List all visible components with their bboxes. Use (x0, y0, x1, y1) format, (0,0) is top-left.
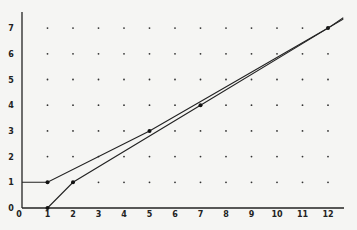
grid-dot (225, 181, 227, 183)
x-tick-label: 0 (16, 210, 22, 219)
line-chart-plot: 012345678910111201234567 (0, 0, 357, 230)
grid-dot (123, 156, 125, 158)
grid-dot (251, 156, 253, 158)
grid-dot (302, 181, 304, 183)
grid-dot (98, 27, 100, 29)
x-tick-label: 8 (223, 210, 229, 219)
grid-dot (200, 53, 202, 55)
grid-dot (302, 156, 304, 158)
grid-dot (200, 27, 202, 29)
grid-dot (123, 104, 125, 106)
grid-dot (72, 156, 74, 158)
x-tick-label: 12 (322, 210, 333, 219)
grid-dot (72, 130, 74, 132)
grid-dot (327, 130, 329, 132)
grid-dot (47, 79, 49, 81)
grid-dot (302, 104, 304, 106)
y-tick-label: 4 (8, 101, 14, 110)
grid-dot (123, 130, 125, 132)
grid-dot (123, 79, 125, 81)
grid-dot (47, 130, 49, 132)
x-tick-label: 9 (249, 210, 255, 219)
grid-dot (123, 181, 125, 183)
data-point (199, 103, 203, 107)
grid-dot (225, 27, 227, 29)
grid-dot (149, 53, 151, 55)
grid-dot (251, 27, 253, 29)
grid-dot (327, 181, 329, 183)
grid-dot (47, 53, 49, 55)
grid-dot (251, 130, 253, 132)
x-tick-label: 11 (297, 210, 309, 219)
grid-dot (98, 53, 100, 55)
grid-dot (276, 104, 278, 106)
grid-dot (149, 156, 151, 158)
grid-dot (174, 53, 176, 55)
grid-dot (327, 104, 329, 106)
y-tick-label: 6 (8, 50, 14, 59)
series-line (22, 19, 343, 182)
grid-dot (276, 27, 278, 29)
grid-dot (302, 53, 304, 55)
grid-dot (200, 181, 202, 183)
grid-dot (47, 104, 49, 106)
grid-dot (251, 104, 253, 106)
x-tick-label: 5 (147, 210, 153, 219)
data-point (46, 206, 50, 210)
grid-dot (47, 156, 49, 158)
grid-dot (200, 156, 202, 158)
grid-dot (174, 27, 176, 29)
grid-dot (47, 27, 49, 29)
grid-dot (174, 181, 176, 183)
series-line (48, 18, 344, 208)
grid-dot (98, 79, 100, 81)
grid-dot (200, 130, 202, 132)
grid-dot (327, 79, 329, 81)
grid-dot (149, 104, 151, 106)
chart: 012345678910111201234567 (0, 0, 357, 230)
x-tick-label: 7 (198, 210, 204, 219)
x-tick-label: 4 (121, 210, 127, 219)
grid-dot (149, 27, 151, 29)
grid-dot (123, 53, 125, 55)
grid-dot (72, 27, 74, 29)
grid-dot (327, 156, 329, 158)
grid-dot (225, 156, 227, 158)
grid-dot (276, 181, 278, 183)
grid-dot (174, 79, 176, 81)
y-tick-label: 2 (8, 153, 14, 162)
y-tick-label: 1 (8, 178, 14, 187)
grid-dot (251, 181, 253, 183)
grid-dot (98, 130, 100, 132)
data-point (148, 129, 152, 133)
grid-dot (98, 181, 100, 183)
grid-dot (225, 104, 227, 106)
grid-dot (174, 104, 176, 106)
grid-dot (123, 27, 125, 29)
grid-dot (72, 104, 74, 106)
y-tick-label: 0 (8, 204, 14, 213)
grid-dot (276, 79, 278, 81)
grid-dot (72, 79, 74, 81)
x-tick-label: 1 (45, 210, 51, 219)
x-tick-label: 6 (172, 210, 178, 219)
grid-dot (200, 79, 202, 81)
y-tick-label: 3 (8, 127, 14, 136)
data-point (46, 180, 50, 184)
x-tick-label: 3 (96, 210, 102, 219)
y-tick-label: 7 (8, 24, 14, 33)
grid-dot (225, 53, 227, 55)
x-tick-label: 2 (70, 210, 76, 219)
grid-dot (302, 130, 304, 132)
grid-dot (251, 79, 253, 81)
grid-dot (302, 79, 304, 81)
x-tick-label: 10 (271, 210, 283, 219)
grid-dot (225, 79, 227, 81)
grid-dot (149, 181, 151, 183)
grid-dot (251, 53, 253, 55)
data-point (71, 180, 75, 184)
grid-dot (98, 104, 100, 106)
grid-dot (149, 79, 151, 81)
grid-dot (174, 156, 176, 158)
grid-dot (225, 130, 227, 132)
